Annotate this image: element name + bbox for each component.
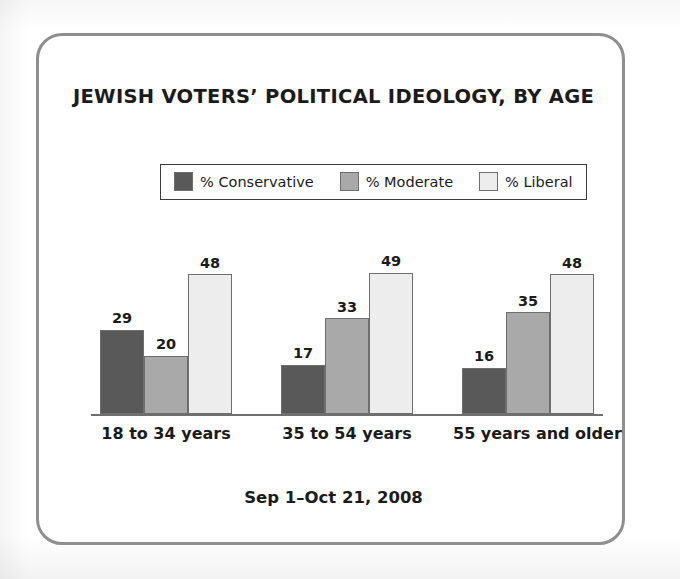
bar-rect xyxy=(506,312,550,414)
legend-swatch-conservative xyxy=(174,172,193,191)
bar-value-label: 35 xyxy=(518,294,538,309)
bar-liberal-55-and-older[interactable]: 48 xyxy=(550,254,594,414)
bar-liberal-35-to-54[interactable]: 49 xyxy=(369,254,413,414)
bar-rect xyxy=(281,365,325,415)
category-label-18-to-34: 18 to 34 years xyxy=(91,424,241,443)
category-label-35-to-54: 35 to 54 years xyxy=(272,424,422,443)
bar-value-label: 48 xyxy=(200,256,220,271)
legend-swatch-liberal xyxy=(479,172,498,191)
survey-date-range: Sep 1–Oct 21, 2008 xyxy=(39,488,628,507)
bar-rect xyxy=(550,274,594,414)
bar-groups: 29 20 48 17 33 xyxy=(91,254,603,414)
bar-value-label: 17 xyxy=(293,346,313,361)
legend-label-liberal: % Liberal xyxy=(505,174,573,190)
bar-rect xyxy=(325,318,369,414)
bar-conservative-55-and-older[interactable]: 16 xyxy=(462,254,506,414)
bar-conservative-18-to-34[interactable]: 29 xyxy=(100,254,144,414)
bar-value-label: 33 xyxy=(337,300,357,315)
chart-title: JEWISH VOTERS’ POLITICAL IDEOLOGY, BY AG… xyxy=(39,85,628,108)
bar-group-18-to-34: 29 20 48 xyxy=(91,254,241,414)
bar-value-label: 20 xyxy=(156,337,176,352)
legend-item-liberal[interactable]: % Liberal xyxy=(479,172,573,191)
legend-label-moderate: % Moderate xyxy=(366,174,453,190)
bar-rect xyxy=(144,356,188,414)
x-axis-category-labels: 18 to 34 years 35 to 54 years 55 years a… xyxy=(91,424,603,443)
bar-rect xyxy=(369,273,413,415)
bar-group-55-and-older: 16 35 48 xyxy=(453,254,603,414)
bar-moderate-18-to-34[interactable]: 20 xyxy=(144,254,188,414)
bar-group-35-to-54: 17 33 49 xyxy=(272,254,422,414)
category-label-55-and-older: 55 years and older xyxy=(453,424,603,443)
legend-label-conservative: % Conservative xyxy=(200,174,314,190)
bar-moderate-55-and-older[interactable]: 35 xyxy=(506,254,550,414)
chart-legend: % Conservative % Moderate % Liberal xyxy=(160,164,587,200)
bar-liberal-18-to-34[interactable]: 48 xyxy=(188,254,232,414)
legend-item-conservative[interactable]: % Conservative xyxy=(174,172,314,191)
x-axis-line xyxy=(91,414,603,416)
bar-rect xyxy=(462,368,506,415)
bar-value-label: 49 xyxy=(381,254,401,269)
bar-conservative-35-to-54[interactable]: 17 xyxy=(281,254,325,414)
bar-rect xyxy=(100,330,144,414)
bar-rect xyxy=(188,274,232,414)
chart-card: JEWISH VOTERS’ POLITICAL IDEOLOGY, BY AG… xyxy=(36,33,625,545)
legend-item-moderate[interactable]: % Moderate xyxy=(340,172,453,191)
bar-value-label: 48 xyxy=(562,256,582,271)
bar-value-label: 16 xyxy=(474,349,494,364)
bar-value-label: 29 xyxy=(112,311,132,326)
plot-area: 29 20 48 17 33 xyxy=(91,254,603,414)
bar-moderate-35-to-54[interactable]: 33 xyxy=(325,254,369,414)
legend-swatch-moderate xyxy=(340,172,359,191)
